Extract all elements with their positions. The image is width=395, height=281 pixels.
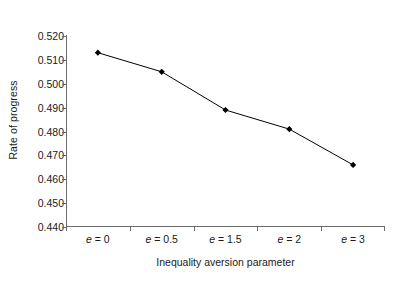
y-axis-title: Rate of progress — [0, 0, 26, 240]
data-point-marker — [286, 126, 292, 132]
x-axis-tick-label: e = 2 — [277, 233, 301, 245]
y-axis-tick-label: 0.520 — [24, 30, 64, 42]
y-axis-tick-label: 0.450 — [24, 197, 64, 209]
y-axis-title-text: Rate of progress — [7, 80, 19, 159]
x-axis-tick-labels: e = 0e = 0.5e = 1.5e = 2e = 3 — [66, 233, 385, 251]
y-axis-tick-label: 0.500 — [24, 78, 64, 90]
y-axis-tick-label: 0.470 — [24, 149, 64, 161]
chart-figure: Rate of progress 0.5200.5100.5000.4900.4… — [0, 0, 395, 281]
x-axis-tick-mark — [257, 227, 258, 231]
x-axis-tick-value: = 1.5 — [215, 233, 242, 245]
x-axis-tick-mark — [321, 227, 322, 231]
data-series — [66, 36, 385, 227]
x-axis-tick-value: = 3 — [347, 233, 365, 245]
plot-area — [66, 36, 385, 227]
x-axis-tick-label: e = 1.5 — [209, 233, 241, 245]
y-axis-tick-label: 0.490 — [24, 102, 64, 114]
y-axis-tick-label: 0.460 — [24, 173, 64, 185]
x-axis-tick-label: e = 3 — [341, 233, 365, 245]
x-axis-tick-mark — [194, 227, 195, 231]
x-axis-tick-label: e = 0.5 — [145, 233, 177, 245]
x-axis-tick-value: = 0.5 — [151, 233, 178, 245]
data-point-marker — [159, 69, 165, 75]
x-axis-tick-mark — [384, 227, 385, 231]
x-axis-tick-label: e = 0 — [86, 233, 110, 245]
x-axis-tick-value: = 0 — [92, 233, 110, 245]
x-axis-tick-mark — [130, 227, 131, 231]
data-point-marker — [350, 162, 356, 168]
y-axis-tick-label: 0.440 — [24, 221, 64, 233]
y-axis-tick-label: 0.480 — [24, 126, 64, 138]
data-point-marker — [222, 107, 228, 113]
x-axis-tick-mark — [66, 227, 67, 231]
x-axis-title: Inequality aversion parameter — [66, 256, 385, 268]
data-point-marker — [95, 50, 101, 56]
y-axis-tick-label: 0.510 — [24, 54, 64, 66]
x-axis-tick-value: = 2 — [283, 233, 301, 245]
y-axis-tick-labels: 0.5200.5100.5000.4900.4800.4700.4600.450… — [24, 30, 64, 228]
